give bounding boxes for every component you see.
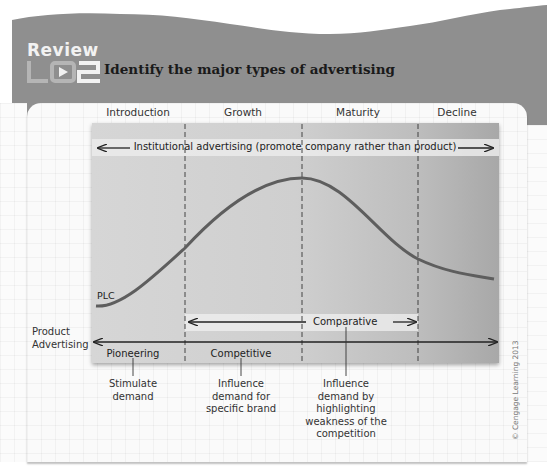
description-comparative: Influence demand by highlighting weaknes… bbox=[305, 378, 387, 441]
plc-label: PLC bbox=[97, 290, 115, 301]
pioneering-label: Pioneering bbox=[107, 348, 160, 359]
desc-line: demand bbox=[109, 391, 157, 404]
desc-line: weakness of the bbox=[305, 416, 387, 429]
plc-curve bbox=[96, 178, 494, 306]
description-pioneering: Stimulate demand bbox=[109, 378, 157, 403]
desc-line: demand for bbox=[206, 391, 276, 404]
desc-line: competition bbox=[305, 428, 387, 441]
stage-divider-lines bbox=[185, 124, 418, 362]
desc-line: Influence bbox=[206, 378, 276, 391]
copyright-credit: © Cengage Learning 2013 bbox=[511, 340, 520, 440]
desc-line: Influence bbox=[305, 378, 387, 391]
product-advertising-line2: Advertising bbox=[32, 338, 89, 351]
product-advertising-label: Product Advertising bbox=[32, 325, 89, 351]
desc-line: Stimulate bbox=[109, 378, 157, 391]
desc-line: demand by bbox=[305, 391, 387, 404]
description-competitive: Influence demand for specific brand bbox=[206, 378, 276, 416]
competitive-label: Competitive bbox=[211, 348, 272, 359]
product-advertising-line1: Product bbox=[32, 325, 89, 338]
comparative-label: Comparative bbox=[310, 316, 380, 327]
desc-line: highlighting bbox=[305, 403, 387, 416]
desc-line: specific brand bbox=[206, 403, 276, 416]
institutional-advertising-label: Institutional advertising (promote compa… bbox=[134, 141, 457, 152]
